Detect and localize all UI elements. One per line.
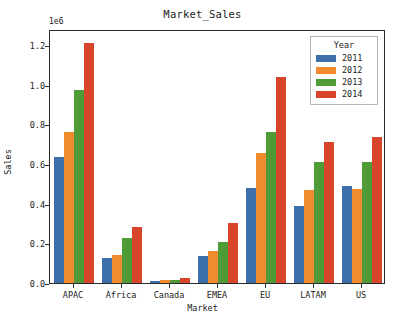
bar: [198, 256, 208, 283]
bar: [170, 280, 180, 283]
bar: [150, 281, 160, 283]
y-tick-label: 0.4: [9, 200, 45, 210]
bar: [112, 255, 122, 283]
bar: [74, 90, 84, 283]
bar: [160, 280, 170, 283]
legend-item[interactable]: 2011: [316, 52, 372, 64]
bar: [208, 251, 218, 283]
bar: [372, 137, 382, 283]
legend-label: 2012: [342, 65, 362, 75]
bar: [122, 238, 132, 283]
legend-swatch: [316, 79, 336, 86]
bar: [304, 190, 314, 283]
chart-figure: Market_Sales 1e6 Sales Market 0.00.20.40…: [0, 0, 405, 330]
y-tick-label: 1.0: [9, 81, 45, 91]
legend-label: 2014: [342, 89, 362, 99]
bar-group: [50, 31, 98, 283]
x-tick-label: EMEA: [207, 290, 227, 300]
bar-group: [98, 31, 146, 283]
x-tick-label: Canada: [154, 290, 185, 300]
bar: [314, 162, 324, 283]
x-tick-mark: [313, 284, 314, 288]
x-tick-label: APAC: [63, 290, 83, 300]
bar: [218, 242, 228, 283]
y-tick-label: 0.2: [9, 239, 45, 249]
x-tick-mark: [121, 284, 122, 288]
y-tick-label: 0.0: [9, 279, 45, 289]
y-tick-label: 1.2: [9, 41, 45, 51]
x-tick-label: US: [356, 290, 366, 300]
x-tick-mark: [73, 284, 74, 288]
y-tick-mark: [45, 284, 49, 285]
x-tick-mark: [265, 284, 266, 288]
x-tick-mark: [217, 284, 218, 288]
bar-group: [242, 31, 290, 283]
legend-entries: 2011201220132014: [316, 52, 372, 100]
bar: [362, 162, 372, 283]
legend-label: 2011: [342, 53, 362, 63]
legend-label: 2013: [342, 77, 362, 87]
bar: [84, 43, 94, 283]
legend-item[interactable]: 2013: [316, 76, 372, 88]
bar-group: [194, 31, 242, 283]
bar: [266, 132, 276, 283]
bar: [180, 278, 190, 283]
legend-swatch: [316, 55, 336, 62]
legend-swatch: [316, 67, 336, 74]
bar: [64, 132, 74, 283]
x-tick-label: EU: [260, 290, 270, 300]
bar: [256, 153, 266, 283]
bar-group: [146, 31, 194, 283]
bar: [276, 77, 286, 283]
bar: [132, 227, 142, 283]
x-tick-label: Africa: [106, 290, 137, 300]
y-tick-label: 0.6: [9, 160, 45, 170]
bar: [54, 157, 64, 283]
bar: [246, 188, 256, 283]
legend-swatch: [316, 91, 336, 98]
legend-title: Year: [316, 40, 372, 50]
bar: [352, 189, 362, 283]
bar: [294, 206, 304, 283]
legend: Year 2011201220132014: [310, 36, 378, 105]
x-tick-label: LATAM: [300, 290, 326, 300]
bar: [228, 223, 238, 283]
bar: [102, 258, 112, 283]
y-axis-offset-label: 1e6: [49, 17, 63, 26]
bar: [324, 142, 334, 283]
x-axis-label: Market: [0, 303, 405, 313]
legend-item[interactable]: 2012: [316, 64, 372, 76]
x-tick-mark: [169, 284, 170, 288]
y-tick-label: 0.8: [9, 120, 45, 130]
x-tick-mark: [361, 284, 362, 288]
bar: [342, 186, 352, 283]
legend-item[interactable]: 2014: [316, 88, 372, 100]
